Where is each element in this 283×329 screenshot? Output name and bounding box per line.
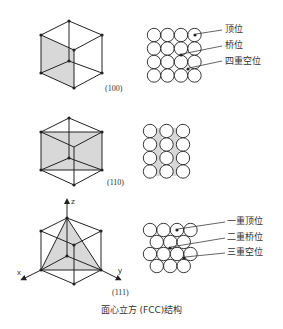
label-bridge-site: 桥位 (225, 41, 243, 50)
label-plane-111: (111) (112, 288, 129, 297)
label-plane-100: (100) (105, 84, 122, 93)
label-three-fold-hollow-site: 三重空位 (227, 248, 263, 257)
cube-110 (39, 116, 103, 186)
fcc-surface-figure: 顶位 桥位 四重空位 (100) (110) z x y (111) 一重顶位 … (0, 0, 283, 329)
label-plane-110: (110) (107, 178, 124, 187)
atom-grid-110 (143, 124, 189, 178)
label-two-fold-bridge-site: 二重桥位 (227, 233, 263, 242)
label-hollow-site: 四重空位 (225, 57, 261, 66)
atom-grid-100 (147, 28, 201, 82)
label-y-axis: y (118, 266, 122, 275)
label-one-fold-top-site: 一重顶位 (227, 217, 263, 226)
shaded-plane-110 (41, 132, 102, 170)
cube-100 (39, 19, 103, 89)
cube-111 (23, 201, 119, 286)
y-axis (101, 270, 119, 279)
label-z-axis: z (71, 197, 75, 206)
label-top-site: 顶位 (225, 25, 243, 34)
x-axis (23, 270, 41, 279)
figure-caption: 面心立方 (FCC)结构 (0, 303, 283, 316)
label-x-axis: x (17, 268, 21, 277)
